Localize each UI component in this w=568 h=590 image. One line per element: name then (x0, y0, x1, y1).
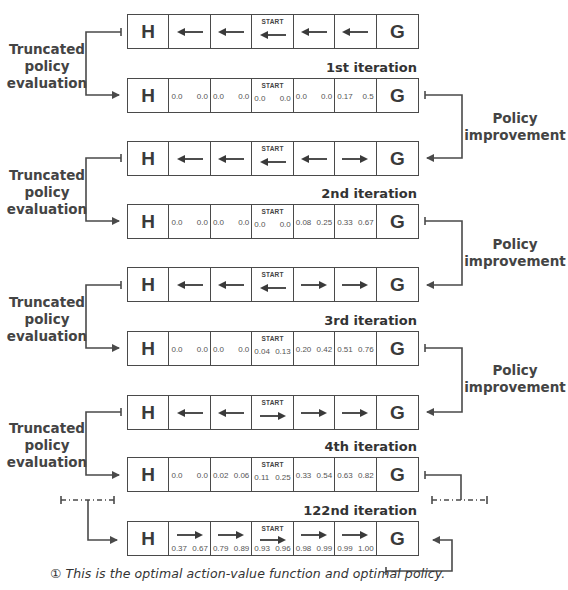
arrow-left-icon (342, 27, 368, 37)
truncated-policy-evaluation-label: Truncated policy evaluation (2, 41, 92, 92)
goal-cell: G (377, 522, 418, 555)
state-cell: 0.370.67 (169, 522, 210, 555)
start-label: START (252, 208, 292, 215)
q-right-value: 0.89 (234, 544, 250, 553)
iteration-label: 4th iteration (324, 439, 417, 454)
state-cell: 0.00.0 (169, 458, 210, 491)
action-values: 0.00.0 (171, 218, 207, 227)
arrow-right-icon (342, 154, 368, 164)
action-values: 0.510.76 (337, 345, 373, 354)
arrow-right-icon (301, 408, 327, 418)
arrow-right-icon (301, 280, 327, 290)
arrow-left-icon (177, 154, 203, 164)
q-left-value: 0.63 (337, 471, 353, 480)
truncated-policy-evaluation-label: Truncated policy evaluation (2, 420, 92, 471)
label-line: Truncated (2, 420, 92, 437)
truncated-policy-evaluation-label: Truncated policy evaluation (2, 294, 92, 345)
action-values: 0.040.13 (254, 348, 290, 357)
q-right-value: 0.0 (238, 92, 249, 101)
start-label: START (252, 335, 292, 342)
action-values: 0.00.0 (296, 92, 332, 101)
q-left-value: 0.0 (213, 218, 224, 227)
start-label: START (252, 271, 292, 278)
state-cell: 0.330.67 (335, 205, 376, 238)
state-cell: 0.020.06 (211, 458, 252, 491)
goal-cell: G (377, 15, 418, 48)
start-cell: START0.00.0 (252, 79, 293, 112)
q-left-value: 0.17 (337, 92, 353, 101)
state-cell: 0.330.54 (294, 458, 335, 491)
note-text: This is the optimal action-value functio… (65, 566, 445, 581)
action-values: 0.370.67 (171, 544, 207, 553)
goal-cell: G (377, 458, 418, 491)
action-values: 0.020.06 (213, 471, 249, 480)
action-values: 0.330.54 (296, 471, 332, 480)
start-label: START (252, 18, 292, 25)
state-cell (169, 142, 210, 175)
state-cell: 0.170.5 (335, 79, 376, 112)
value-grid: H0.00.00.020.06START0.110.250.330.540.63… (127, 457, 419, 492)
hole-cell: H (128, 522, 169, 555)
truncated-policy-evaluation-label: Truncated policy evaluation (2, 167, 92, 218)
label-line: policy (2, 184, 92, 201)
label-line: Policy (462, 362, 568, 379)
arrow-left-icon (301, 27, 327, 37)
q-right-value: 0.67 (192, 544, 208, 553)
arrow-left-icon (301, 154, 327, 164)
q-left-value: 0.0 (213, 345, 224, 354)
q-right-value: 1.00 (358, 544, 374, 553)
hole-cell: H (128, 458, 169, 491)
hole-cell: H (128, 79, 169, 112)
label-line: Truncated (2, 41, 92, 58)
state-cell: 0.00.0 (211, 205, 252, 238)
label-line: evaluation (2, 454, 92, 471)
action-values: 0.630.82 (337, 471, 373, 480)
state-cell (335, 15, 376, 48)
label-line: Policy (462, 110, 568, 127)
note-number-icon: ① (50, 566, 61, 581)
state-cell (335, 268, 376, 301)
goal-cell: G (377, 332, 418, 365)
label-line: Truncated (2, 167, 92, 184)
action-values: 0.930.96 (254, 544, 290, 553)
start-label: START (252, 82, 292, 89)
hole-cell: H (128, 396, 169, 429)
iteration-label: 1st iteration (326, 60, 417, 75)
action-values: 0.00.0 (171, 345, 207, 354)
q-left-value: 0.33 (337, 218, 353, 227)
iteration-label: 2nd iteration (321, 186, 417, 201)
label-line: policy (2, 58, 92, 75)
state-cell: 0.080.25 (294, 205, 335, 238)
action-values: 0.00.0 (213, 218, 249, 227)
q-left-value: 0.37 (171, 544, 187, 553)
state-cell (335, 142, 376, 175)
label-line: Policy (462, 236, 568, 253)
arrow-left-icon (177, 280, 203, 290)
start-cell: START (252, 268, 293, 301)
q-left-value: 0.0 (171, 345, 182, 354)
q-right-value: 0.76 (358, 345, 374, 354)
state-cell: 0.00.0 (169, 79, 210, 112)
q-right-value: 0.25 (275, 474, 291, 483)
hole-cell: H (128, 142, 169, 175)
state-cell (211, 396, 252, 429)
hole-cell: H (128, 332, 169, 365)
state-cell (169, 15, 210, 48)
arrow-left-icon (260, 283, 286, 293)
state-cell: 0.510.76 (335, 332, 376, 365)
q-right-value: 0.0 (197, 471, 208, 480)
state-cell (211, 15, 252, 48)
q-left-value: 0.0 (296, 92, 307, 101)
q-left-value: 0.79 (213, 544, 229, 553)
q-left-value: 0.0 (171, 471, 182, 480)
start-cell: START0.110.25 (252, 458, 293, 491)
label-line: evaluation (2, 75, 92, 92)
q-right-value: 0.06 (234, 471, 250, 480)
start-label: START (252, 399, 292, 406)
q-right-value: 0.0 (238, 345, 249, 354)
label-line: evaluation (2, 328, 92, 345)
arrow-left-icon (218, 280, 244, 290)
action-values: 0.00.0 (171, 92, 207, 101)
arrow-right-icon (342, 408, 368, 418)
state-cell: 0.630.82 (335, 458, 376, 491)
